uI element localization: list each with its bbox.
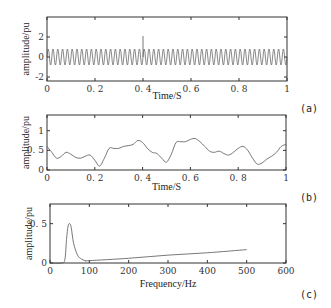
chart-panel-b: 00. 20. 40. 60. 8100. 51Time/Samplitude/… bbox=[20, 115, 318, 203]
x-tick-label: 400 bbox=[199, 266, 216, 276]
x-tick-label: 0. 2 bbox=[86, 84, 103, 94]
panel-label: (b) bbox=[300, 192, 318, 203]
x-tick-label: 0. 8 bbox=[230, 173, 247, 183]
y-tick-label: 1 bbox=[38, 126, 44, 136]
x-tick-label: 0 bbox=[47, 266, 53, 276]
y-tick-label: 0 bbox=[41, 258, 47, 268]
x-tick-label: 1 bbox=[283, 173, 289, 183]
x-tick-label: 300 bbox=[159, 266, 176, 276]
figure: 00. 20. 40. 60. 81-202Time/Samplitude/pu… bbox=[0, 0, 331, 308]
x-tick-label: 0. 2 bbox=[86, 173, 103, 183]
y-tick-label: 0 bbox=[38, 165, 44, 175]
axes-box bbox=[50, 204, 286, 263]
x-tick-label: 200 bbox=[120, 266, 137, 276]
data-line bbox=[50, 224, 247, 264]
x-axis-label: Time/S bbox=[152, 181, 181, 192]
x-tick-label: 600 bbox=[277, 266, 294, 276]
y-axis-label: amplitude/pu bbox=[20, 23, 31, 76]
chart-panel-c: 010020030040050060000. 5Frequency/Hzampl… bbox=[23, 204, 318, 300]
x-tick-label: 0. 8 bbox=[230, 84, 247, 94]
x-tick-label: 1 bbox=[284, 84, 290, 94]
data-line bbox=[47, 49, 287, 65]
y-tick-label: 2 bbox=[38, 32, 44, 42]
y-axis-label: amplitude/pu bbox=[20, 116, 31, 169]
data-line bbox=[47, 138, 286, 166]
x-tick-label: 0. 4 bbox=[134, 84, 151, 94]
y-axis-label: amplitude/pu bbox=[23, 207, 34, 260]
x-tick-label: 0 bbox=[44, 173, 50, 183]
x-tick-label: 0. 6 bbox=[182, 84, 199, 94]
x-tick-label: 100 bbox=[81, 266, 98, 276]
x-axis-label: Time/S bbox=[152, 90, 181, 101]
y-tick-label: -2 bbox=[35, 72, 44, 82]
panel-label: (a) bbox=[300, 103, 318, 114]
x-axis-label: Frequency/Hz bbox=[140, 278, 197, 289]
x-tick-label: 0 bbox=[44, 84, 50, 94]
y-tick-label: 0 bbox=[38, 52, 44, 62]
axes-box bbox=[47, 17, 287, 81]
x-tick-label: 500 bbox=[238, 266, 255, 276]
chart-panel-a: 00. 20. 40. 60. 81-202Time/Samplitude/pu… bbox=[20, 17, 318, 114]
x-tick-label: 0. 6 bbox=[182, 173, 199, 183]
x-tick-label: 0. 4 bbox=[134, 173, 151, 183]
panel-label: (c) bbox=[300, 289, 318, 300]
